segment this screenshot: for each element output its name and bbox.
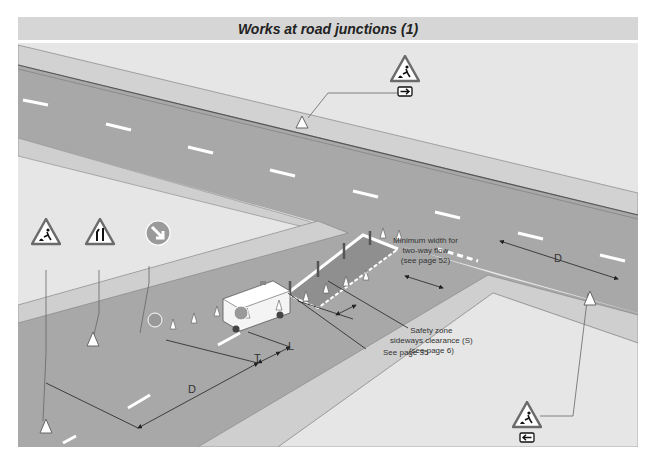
- dimension-t: T: [254, 352, 261, 364]
- roadworks-triangle-icon: [512, 401, 542, 449]
- roadworks-triangle-icon: [390, 55, 420, 103]
- page-title: Works at road junctions (1): [238, 21, 418, 37]
- roadworks-sign-right: [390, 55, 420, 103]
- road-narrows-sign: [85, 218, 115, 248]
- road-narrows-icon: [85, 218, 115, 248]
- dimension-l: L: [288, 340, 294, 352]
- title-banner: Works at road junctions (1): [18, 17, 638, 40]
- label-min-width: Minimum width for two-way flow (see page…: [393, 236, 458, 266]
- roadworks-sign-left: [512, 401, 542, 449]
- label-see-page: See page 35: [383, 348, 428, 358]
- roadworks-sign: [31, 218, 61, 248]
- arrow-down-right-icon: [145, 220, 171, 246]
- roadworks-triangle-icon: [31, 218, 61, 248]
- dimension-d-side: D: [554, 252, 562, 264]
- dimension-d-main: D: [188, 383, 196, 395]
- junction-illustration: Minimum width for two-way flow (see page…: [18, 43, 638, 447]
- keep-right-sign: [145, 220, 171, 246]
